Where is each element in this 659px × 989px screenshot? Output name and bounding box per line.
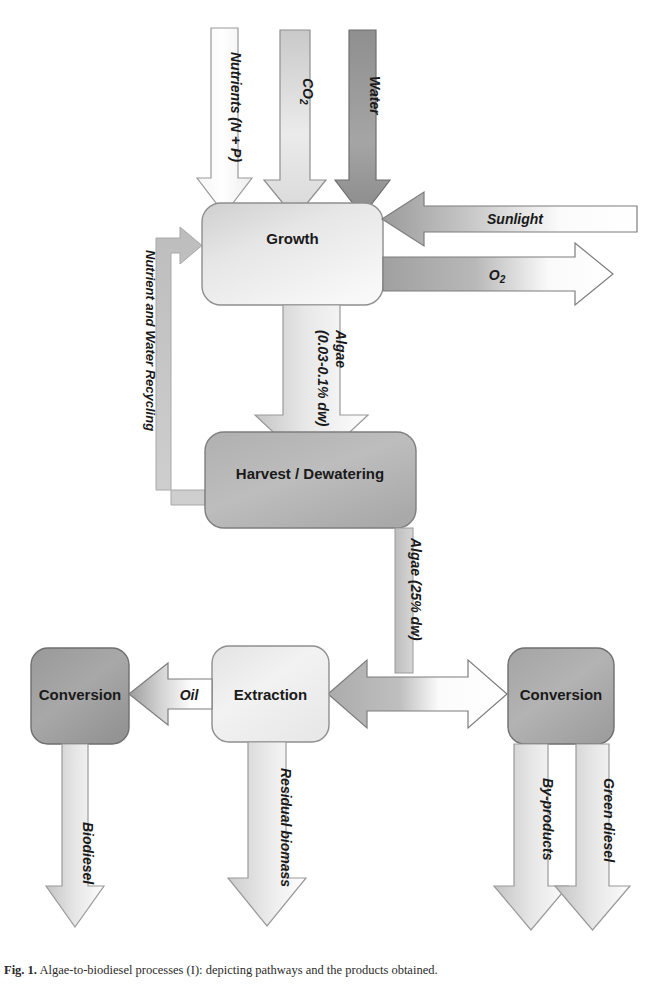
node-harvest-dewatering[interactable]: Harvest / Dewatering: [205, 432, 416, 528]
flow-arrow-co2: CO2: [264, 30, 326, 218]
flow-arrow-sunlight: Sunlight: [382, 192, 637, 246]
flow-arrow-oil: Oil: [129, 663, 212, 725]
flow-arrow-water: Water: [335, 30, 390, 216]
figure-container: Nutrients (N + P) CO2 Water Nutrient and…: [0, 0, 659, 989]
flow-arrow-oxygen: O2: [383, 243, 613, 305]
flow-arrow-byproducts: By-products: [494, 744, 568, 930]
flow-arrow-algae-concentrated: Algae (25% dw): [395, 528, 424, 673]
flow-arrow-recycling: Nutrient and Water Recycling: [143, 227, 205, 505]
node-label-conversion-left: Conversion: [39, 686, 122, 703]
flow-label-nutrients: Nutrients (N + P): [228, 52, 244, 162]
node-label-conversion-right: Conversion: [520, 686, 603, 703]
node-conversion-right[interactable]: Conversion: [508, 648, 614, 744]
node-label-growth: Growth: [266, 230, 319, 247]
flow-arrow-residual-biomass: Residual biomass: [228, 742, 306, 926]
node-label-harvest-dewatering: Harvest / Dewatering: [236, 465, 384, 482]
process-flow-diagram: Nutrients (N + P) CO2 Water Nutrient and…: [0, 0, 659, 945]
node-conversion-left[interactable]: Conversion: [31, 648, 129, 744]
flow-label-algae-dilute-line2: (0.03-0.1% dw): [315, 330, 331, 427]
flow-arrow-nutrients: Nutrients (N + P): [197, 28, 252, 214]
flow-label-algae-dilute-line1: Algae: [333, 329, 349, 368]
flow-label-water: Water: [367, 76, 383, 116]
flow-arrow-split-bidirectional: [328, 660, 507, 728]
flow-label-algae-concentrated: Algae (25% dw): [408, 537, 424, 641]
flow-label-byproducts: By-products: [540, 778, 556, 861]
node-label-extraction: Extraction: [234, 686, 307, 703]
flow-label-biodiesel: Biodiesel: [80, 822, 96, 885]
flow-label-recycling: Nutrient and Water Recycling: [143, 250, 158, 431]
figure-caption: Fig. 1. Algae-to-biodiesel processes (I)…: [4, 962, 656, 989]
flow-label-oil: Oil: [180, 687, 200, 703]
flow-label-residual-biomass: Residual biomass: [278, 768, 294, 887]
flow-label-sunlight: Sunlight: [487, 211, 544, 227]
figure-caption-text: Algae-to-biodiesel processes (I): depict…: [37, 963, 438, 977]
flow-label-co2: CO2: [298, 78, 316, 105]
flow-label-green-diesel: Green diesel: [601, 778, 617, 863]
node-growth[interactable]: Growth: [202, 203, 383, 305]
figure-caption-label: Fig. 1.: [4, 963, 37, 977]
node-extraction[interactable]: Extraction: [212, 646, 329, 742]
flow-arrow-biodiesel: Biodiesel: [46, 744, 104, 927]
flow-arrow-green-diesel: Green diesel: [555, 744, 630, 930]
